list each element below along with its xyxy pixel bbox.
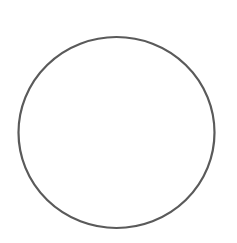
diagram-canvas xyxy=(0,0,237,243)
circle-outline xyxy=(19,37,215,228)
